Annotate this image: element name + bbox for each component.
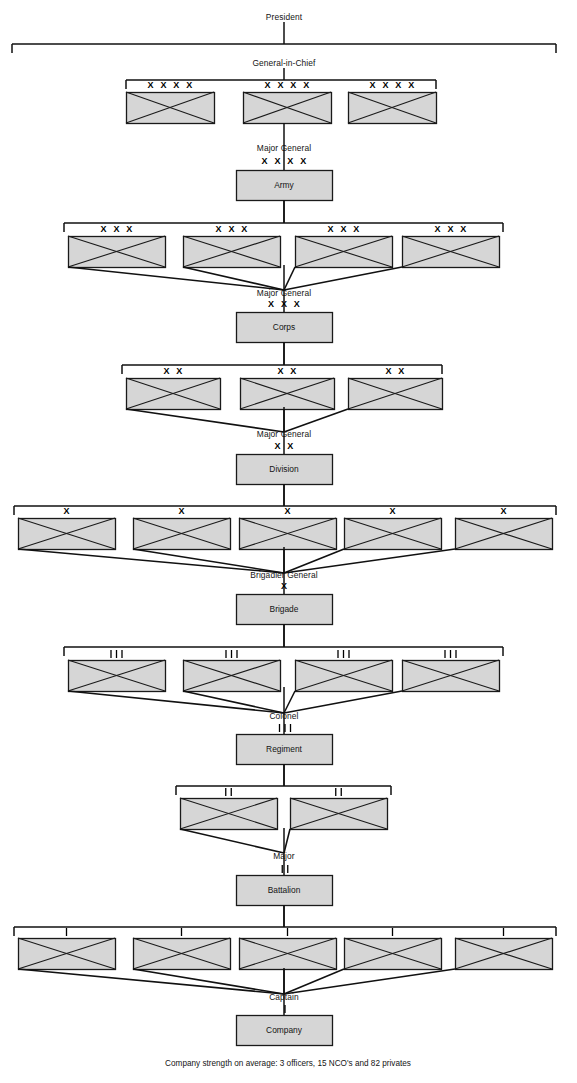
- unit-symbol-box[interactable]: [133, 518, 231, 550]
- echelon-mark-sub-1-3: X X X: [434, 225, 468, 234]
- unit-box-label-brigade: Brigade: [270, 604, 299, 614]
- converge-line: [284, 691, 402, 713]
- rank-label-colonel: Colonel: [269, 711, 298, 721]
- rank-label-major-general-army: Major General: [257, 143, 311, 153]
- bracket-president: [12, 44, 556, 53]
- echelon-mark-sub-0-1: X X X X: [265, 81, 312, 90]
- converge-line: [68, 691, 284, 713]
- echelon-mark-sub-1-1: X X X: [215, 225, 249, 234]
- unit-symbol-box[interactable]: [348, 378, 443, 410]
- echelon-mark-sub-2-1: X X: [277, 367, 298, 376]
- unit-symbol-box[interactable]: [239, 938, 337, 970]
- unit-symbol-box[interactable]: [183, 236, 281, 268]
- unit-symbol-box[interactable]: [295, 236, 393, 268]
- unit-symbol-box[interactable]: [240, 378, 335, 410]
- echelon-bars-2: [282, 865, 288, 873]
- echelon-mark-sub-2-2: X X: [385, 367, 406, 376]
- unit-box-label-regiment: Regiment: [266, 744, 302, 754]
- echelon-mark-sub-1-0: X X X: [100, 225, 134, 234]
- unit-symbol-box[interactable]: [133, 938, 231, 970]
- converge-lines-regiment: [180, 829, 290, 853]
- unit-symbol-box[interactable]: [295, 660, 393, 692]
- echelon-bars-3: [111, 650, 122, 658]
- rank-label-major: Major: [273, 851, 294, 861]
- unit-symbol-box[interactable]: [344, 518, 442, 550]
- rank-label-major-general-corps: Major General: [257, 288, 311, 298]
- rank-label-captain: Captain: [269, 992, 299, 1002]
- converge-lines-battalion: [18, 969, 455, 994]
- converge-line: [68, 267, 284, 290]
- unit-symbol-box[interactable]: [290, 798, 388, 830]
- echelon-mark-sub-0-0: X X X X: [148, 81, 195, 90]
- echelon-mark-sub-3-0: X: [63, 507, 71, 516]
- unit-symbol-box[interactable]: [243, 92, 332, 124]
- unit-box-label-division: Division: [269, 464, 298, 474]
- echelon-bars-2: [336, 788, 342, 796]
- unit-box-label-company: Company: [266, 1025, 302, 1035]
- echelon-mark-sub-3-4: X: [500, 507, 508, 516]
- converge-line: [284, 267, 295, 290]
- unit-symbol-box[interactable]: [126, 92, 215, 124]
- bracket-battalion: [14, 905, 556, 936]
- unit-symbol-box[interactable]: [68, 660, 166, 692]
- unit-symbol-box[interactable]: [402, 660, 500, 692]
- unit-symbol-box[interactable]: [180, 798, 278, 830]
- org-chart: X X X XX X X XX X X XX X XX X XX X XX X …: [0, 0, 577, 1083]
- unit-symbol-box[interactable]: [126, 378, 221, 410]
- unit-symbol-box[interactable]: [455, 518, 553, 550]
- rank-label-major-general-division: Major General: [257, 429, 311, 439]
- unit-box-label-battalion: Battalion: [268, 885, 301, 895]
- echelon-bars-3: [226, 650, 237, 658]
- unit-symbol-box[interactable]: [344, 938, 442, 970]
- converge-line: [183, 691, 284, 713]
- rank-label-brigadier-general: Brigadier General: [250, 570, 317, 580]
- converge-lines-corps: [126, 409, 348, 432]
- unit-symbol-box[interactable]: [239, 518, 337, 550]
- echelon-mark-sub-3-2: X: [284, 507, 292, 516]
- echelon-mark-sub-3-3: X: [389, 507, 397, 516]
- unit-symbol-box[interactable]: [18, 938, 116, 970]
- echelon-bars-3: [280, 724, 291, 732]
- converge-line: [284, 969, 455, 994]
- converge-line: [284, 267, 402, 290]
- rank-label-president: President: [266, 12, 302, 22]
- unit-box-label-corps: Corps: [273, 322, 295, 332]
- echelon-mark-brigade: X: [281, 582, 289, 591]
- converge-line: [180, 829, 284, 853]
- converge-line: [284, 691, 295, 713]
- echelon-mark-division: X X: [274, 442, 295, 451]
- echelon-mark-army: X X X X: [262, 157, 309, 166]
- converge-line: [284, 829, 290, 853]
- unit-box-label-army: Army: [274, 180, 294, 190]
- converge-lines-army: [68, 267, 402, 290]
- echelon-mark-sub-0-2: X X X X: [370, 81, 417, 90]
- unit-symbol-box[interactable]: [18, 518, 116, 550]
- echelon-bars-3: [338, 650, 349, 658]
- echelon-mark-sub-3-1: X: [178, 507, 186, 516]
- unit-symbol-box[interactable]: [402, 236, 500, 268]
- echelon-mark-corps: X X X: [268, 300, 302, 309]
- converge-lines-division: [18, 549, 455, 573]
- echelon-mark-sub-2-0: X X: [163, 367, 184, 376]
- unit-symbol-box[interactable]: [68, 236, 166, 268]
- chart-caption: Company strength on average: 3 officers,…: [165, 1058, 411, 1069]
- unit-symbol-box[interactable]: [183, 660, 281, 692]
- converge-lines-brigade: [68, 691, 402, 713]
- converge-line: [183, 267, 284, 290]
- echelon-bars-2: [226, 788, 232, 796]
- rank-label-general-in-chief: General-in-Chief: [252, 58, 315, 68]
- unit-symbol-box[interactable]: [455, 938, 553, 970]
- echelon-mark-sub-1-2: X X X: [327, 225, 361, 234]
- unit-symbol-box[interactable]: [348, 92, 437, 124]
- echelon-bars-3: [445, 650, 456, 658]
